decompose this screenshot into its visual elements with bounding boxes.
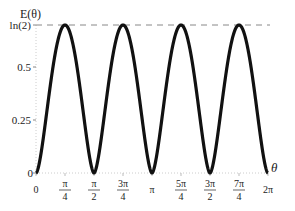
- svg-text:π: π: [62, 178, 67, 189]
- svg-text:3π: 3π: [118, 178, 128, 189]
- svg-text:π: π: [149, 184, 154, 195]
- entropy-curve: [36, 25, 268, 173]
- y-tick-0-5: 0.5: [17, 61, 31, 73]
- x-ticks: 0π4π23π4π5π43π27π42π: [34, 173, 274, 202]
- entropy-chart: 0π4π23π4π5π43π27π42π ln(2) 0.5 0.25 0 E(…: [0, 0, 295, 211]
- svg-text:2: 2: [92, 191, 97, 202]
- svg-text:3π: 3π: [205, 178, 215, 189]
- y-axis-label: E(θ): [20, 7, 41, 21]
- svg-text:4: 4: [179, 191, 184, 202]
- svg-text:7π: 7π: [234, 178, 244, 189]
- y-tick-0-25: 0.25: [12, 114, 32, 126]
- x-axis-label: θ: [271, 160, 278, 175]
- svg-text:4: 4: [237, 191, 242, 202]
- svg-text:2π: 2π: [263, 184, 273, 195]
- svg-text:4: 4: [121, 191, 126, 202]
- svg-text:4: 4: [63, 191, 68, 202]
- svg-text:5π: 5π: [176, 178, 186, 189]
- svg-text:0: 0: [34, 184, 39, 195]
- y-ticks: [33, 25, 36, 173]
- y-tick-0: 0: [28, 167, 34, 179]
- svg-text:2: 2: [208, 191, 213, 202]
- svg-text:π: π: [91, 178, 96, 189]
